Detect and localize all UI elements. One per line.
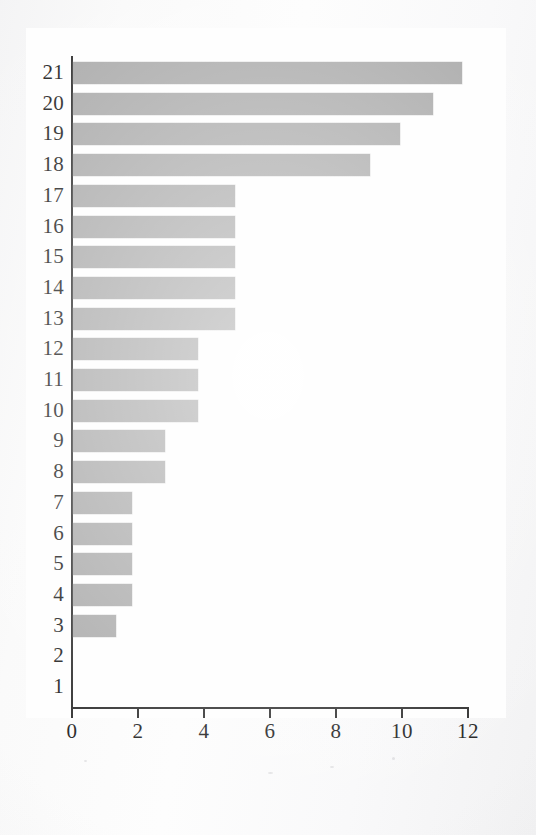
- category-label: 6: [53, 521, 64, 546]
- bar-row: 6: [73, 523, 132, 545]
- category-label: 21: [42, 60, 64, 85]
- x-tick-label: 0: [52, 719, 92, 744]
- category-label: 5: [53, 551, 64, 576]
- scan-speckle: [392, 757, 395, 760]
- category-label: 8: [53, 459, 64, 484]
- x-tick: [467, 709, 469, 718]
- bar: [73, 523, 132, 545]
- scan-speckle: [268, 772, 273, 774]
- x-tick-label: 2: [118, 719, 158, 744]
- scan-speckle: [330, 766, 334, 768]
- x-tick-label: 10: [382, 719, 422, 744]
- bar-row: 18: [73, 154, 370, 176]
- x-tick: [203, 709, 205, 718]
- category-label: 11: [43, 367, 64, 392]
- bar-row: 21: [73, 62, 462, 84]
- bar: [73, 185, 235, 207]
- category-label: 2: [53, 643, 64, 668]
- bar-row: 4: [73, 584, 132, 606]
- category-label: 10: [42, 398, 64, 423]
- scanned-page: 024681012 212019181716151413121110987654…: [0, 0, 536, 835]
- bar-row: 15: [73, 246, 235, 268]
- bar: [73, 369, 198, 391]
- bar-row: 14: [73, 277, 235, 299]
- category-label: 13: [42, 306, 64, 331]
- category-label: 19: [42, 121, 64, 146]
- category-label: 18: [42, 152, 64, 177]
- x-tick: [71, 709, 73, 718]
- x-tick: [335, 709, 337, 718]
- bar: [73, 400, 198, 422]
- bar: [73, 338, 198, 360]
- bar: [73, 308, 235, 330]
- bar: [73, 615, 116, 637]
- x-tick-label: 6: [250, 719, 290, 744]
- bar: [73, 553, 132, 575]
- bar: [73, 492, 132, 514]
- bar-row: 10: [73, 400, 198, 422]
- x-tick-label: 8: [316, 719, 356, 744]
- x-tick: [137, 709, 139, 718]
- bar-row: 19: [73, 123, 400, 145]
- bar: [73, 62, 462, 84]
- bar: [73, 584, 132, 606]
- bar-row: 3: [73, 615, 116, 637]
- bar: [73, 430, 165, 452]
- x-tick-label: 12: [448, 719, 488, 744]
- category-label: 16: [42, 214, 64, 239]
- x-tick-label: 4: [184, 719, 224, 744]
- bar-row: 13: [73, 308, 235, 330]
- bar-chart: 024681012 212019181716151413121110987654…: [0, 0, 536, 835]
- category-label: 14: [42, 275, 64, 300]
- bar-row: 7: [73, 492, 132, 514]
- bar: [73, 216, 235, 238]
- bar-row: 8: [73, 461, 165, 483]
- category-label: 15: [42, 244, 64, 269]
- category-label: 17: [42, 183, 64, 208]
- category-label: 9: [53, 428, 64, 453]
- bar: [73, 461, 165, 483]
- bar: [73, 277, 235, 299]
- category-label: 12: [42, 336, 64, 361]
- category-label: 7: [53, 490, 64, 515]
- category-label: 4: [53, 582, 64, 607]
- bar: [73, 154, 370, 176]
- bar-row: 17: [73, 185, 235, 207]
- x-tick: [401, 709, 403, 718]
- bar-row: 5: [73, 553, 132, 575]
- bar: [73, 93, 433, 115]
- scan-speckle: [84, 760, 87, 762]
- category-label: 20: [42, 91, 64, 116]
- bar: [73, 123, 400, 145]
- category-label: 1: [53, 674, 64, 699]
- x-tick: [269, 709, 271, 718]
- bar-row: 11: [73, 369, 198, 391]
- bar: [73, 246, 235, 268]
- bar-row: 12: [73, 338, 198, 360]
- bar-row: 9: [73, 430, 165, 452]
- bar-row: 16: [73, 216, 235, 238]
- bar-row: 20: [73, 93, 433, 115]
- category-label: 3: [53, 613, 64, 638]
